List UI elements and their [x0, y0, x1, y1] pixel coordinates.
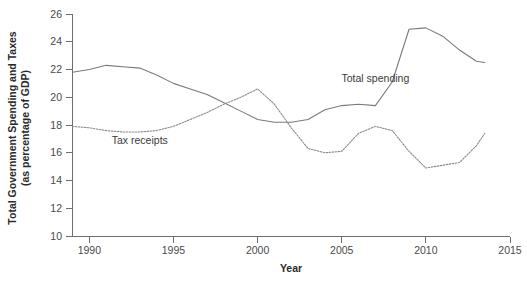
- chart-container: Total Government Spending and Taxes (as …: [0, 0, 527, 288]
- y-tick-label: 20: [50, 91, 62, 103]
- y-axis-title-line2: (as percentage of GDP): [19, 70, 31, 186]
- y-tick-label: 12: [50, 202, 62, 214]
- series-annotations: Total spendingTax receipts: [112, 72, 410, 146]
- y-axis-title-line1: Total Government Spending and Taxes: [6, 31, 18, 224]
- line-chart: Total Government Spending and Taxes (as …: [0, 0, 527, 288]
- y-tick-label: 16: [50, 146, 62, 158]
- x-tick-label: 2010: [414, 244, 438, 256]
- x-axis-ticks: 199019952000200520102015: [78, 237, 522, 257]
- x-axis-title: Year: [280, 262, 302, 274]
- series-label-tax-receipts: Tax receipts: [112, 134, 168, 146]
- y-tick-label: 18: [50, 119, 62, 131]
- series-label-total-spending: Total spending: [342, 72, 410, 84]
- x-tick-label: 2015: [498, 244, 522, 256]
- y-tick-label: 14: [50, 174, 62, 186]
- y-tick-label: 24: [50, 35, 62, 47]
- y-axis-title: Total Government Spending and Taxes (as …: [6, 31, 31, 224]
- x-tick-label: 2005: [330, 244, 354, 256]
- y-axis-ticks: 101214161820222426: [50, 8, 72, 242]
- series-line-tax-receipts: [73, 89, 485, 168]
- x-tick-label: 1995: [162, 244, 186, 256]
- series-group: [73, 28, 485, 168]
- x-tick-label: 1990: [78, 244, 102, 256]
- y-tick-label: 26: [50, 8, 62, 20]
- x-tick-label: 2000: [246, 244, 270, 256]
- series-line-total-spending: [73, 28, 485, 122]
- y-tick-label: 22: [50, 63, 62, 75]
- y-tick-label: 10: [50, 230, 62, 242]
